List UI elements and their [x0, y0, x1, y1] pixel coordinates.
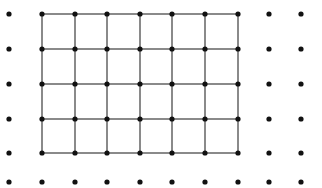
- lattice-dot-r1-c8: [266, 46, 271, 51]
- lattice-dot-r0-c5: [169, 11, 174, 16]
- lattice-dot-r1-c7: [235, 46, 240, 51]
- lattice-dot-r2-c4: [137, 81, 142, 86]
- lattice-dot-r3-c1: [39, 116, 44, 121]
- lattice-dot-r3-c0: [6, 116, 11, 121]
- lattice-dot-r0-c2: [72, 11, 77, 16]
- lattice-dot-r1-c6: [202, 46, 207, 51]
- lattice-dot-r0-c7: [235, 11, 240, 16]
- lattice-dot-r1-c0: [6, 46, 11, 51]
- lattice-dot-r3-c9: [298, 116, 303, 121]
- lattice-dot-r0-c1: [39, 11, 44, 16]
- lattice-canvas: [0, 0, 322, 188]
- lattice-dot-r5-c5: [169, 179, 174, 184]
- lattice-dot-r5-c6: [202, 179, 207, 184]
- lattice-dot-r0-c4: [137, 11, 142, 16]
- lattice-dot-r2-c0: [6, 81, 11, 86]
- lattice-dot-r0-c6: [202, 11, 207, 16]
- lattice-dot-r5-c3: [104, 179, 109, 184]
- lattice-dot-r2-c5: [169, 81, 174, 86]
- lattice-dot-r1-c1: [39, 46, 44, 51]
- lattice-dot-r1-c9: [298, 46, 303, 51]
- lattice-dot-r4-c7: [235, 150, 240, 155]
- lattice-dot-r1-c3: [104, 46, 109, 51]
- lattice-dot-r1-c4: [137, 46, 142, 51]
- lattice-dot-r2-c9: [298, 81, 303, 86]
- lattice-dot-r5-c2: [72, 179, 77, 184]
- lattice-dot-r2-c6: [202, 81, 207, 86]
- lattice-dot-r2-c1: [39, 81, 44, 86]
- lattice-dot-r4-c6: [202, 150, 207, 155]
- figure-background: [0, 0, 322, 188]
- lattice-dot-r3-c4: [137, 116, 142, 121]
- lattice-dot-r0-c0: [6, 11, 11, 16]
- lattice-dot-r3-c2: [72, 116, 77, 121]
- lattice-dot-r5-c0: [6, 179, 11, 184]
- lattice-dot-r3-c7: [235, 116, 240, 121]
- lattice-dot-r4-c2: [72, 150, 77, 155]
- lattice-dot-r3-c3: [104, 116, 109, 121]
- lattice-dot-r2-c7: [235, 81, 240, 86]
- lattice-dot-r5-c9: [298, 179, 303, 184]
- lattice-dot-r5-c4: [137, 179, 142, 184]
- lattice-dot-r4-c5: [169, 150, 174, 155]
- lattice-dot-r1-c5: [169, 46, 174, 51]
- lattice-dot-r2-c3: [104, 81, 109, 86]
- lattice-dot-r4-c9: [298, 150, 303, 155]
- lattice-dot-r4-c0: [6, 150, 11, 155]
- lattice-dot-r0-c8: [266, 11, 271, 16]
- lattice-dot-r4-c1: [39, 150, 44, 155]
- lattice-dot-r0-c9: [298, 11, 303, 16]
- lattice-dot-r1-c2: [72, 46, 77, 51]
- lattice-dot-r5-c8: [266, 179, 271, 184]
- lattice-dot-r5-c1: [39, 179, 44, 184]
- lattice-dot-r2-c8: [266, 81, 271, 86]
- lattice-dot-r4-c3: [104, 150, 109, 155]
- lattice-dot-r0-c3: [104, 11, 109, 16]
- lattice-dot-r4-c8: [266, 150, 271, 155]
- lattice-dot-r5-c7: [235, 179, 240, 184]
- lattice-dot-r4-c4: [137, 150, 142, 155]
- lattice-dot-r3-c8: [266, 116, 271, 121]
- lattice-dot-r3-c5: [169, 116, 174, 121]
- lattice-dot-r2-c2: [72, 81, 77, 86]
- figure-root: [0, 0, 322, 188]
- lattice-dot-r3-c6: [202, 116, 207, 121]
